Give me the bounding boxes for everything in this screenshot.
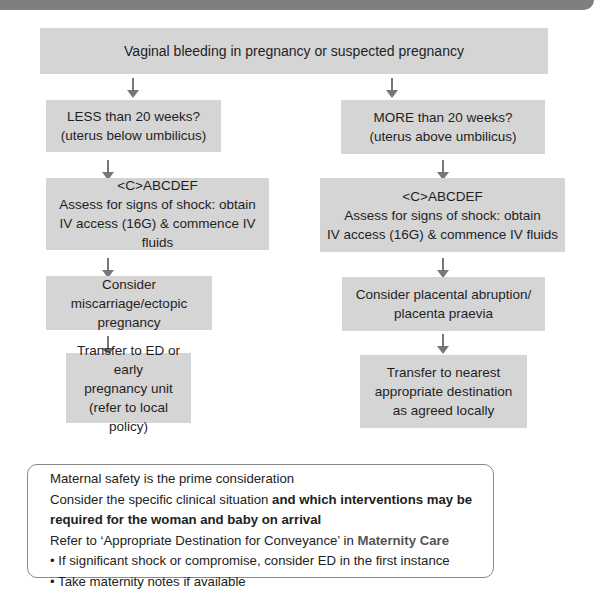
arrow-down-icon: [437, 258, 449, 278]
right-consider-box: Consider placental abruption/ placenta p…: [342, 277, 545, 331]
note-line-2-plain: Consider the specific clinical situation: [50, 492, 272, 507]
root-box: Vaginal bleeding in pregnancy or suspect…: [40, 28, 548, 74]
note-line-3: Refer to ‘Appropriate Destination for Co…: [50, 531, 493, 552]
note-line-2: Consider the specific clinical situation…: [50, 490, 493, 531]
header-banner: [0, 0, 594, 10]
note-line-3-plain: Refer to ‘Appropriate Destination for Co…: [50, 533, 357, 548]
right-assess-box: <C>ABCDEF Assess for signs of shock: obt…: [320, 178, 565, 252]
note-bullet: • If significant shock or compromise, co…: [50, 551, 493, 572]
arrow-down-icon: [437, 160, 449, 180]
notes-panel: Maternal safety is the prime considerati…: [27, 464, 494, 578]
left-transfer-box: Transfer to ED or early pregnancy unit (…: [66, 353, 191, 423]
arrow-down-icon: [386, 78, 398, 98]
left-question-box: LESS than 20 weeks? (uterus below umbili…: [46, 100, 221, 152]
arrow-down-icon: [437, 334, 449, 354]
right-question-box: MORE than 20 weeks? (uterus above umbili…: [341, 100, 545, 154]
left-assess-box: <C>ABCDEF Assess for signs of shock: obt…: [46, 178, 269, 250]
note-line-1: Maternal safety is the prime considerati…: [50, 469, 493, 490]
left-consider-box: Consider miscarriage/ectopic pregnancy: [46, 276, 212, 330]
note-bullet: • Take maternity notes if available: [50, 572, 493, 593]
maternity-care-reference: Maternity Care: [357, 533, 449, 548]
arrow-down-icon: [127, 78, 139, 98]
right-transfer-box: Transfer to nearest appropriate destinat…: [360, 355, 527, 428]
